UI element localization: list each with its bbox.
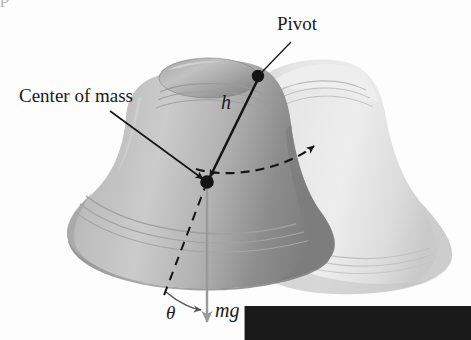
weight-vector-label: mg — [215, 300, 239, 320]
theta-angle-label: θ — [166, 303, 175, 322]
diagram-canvas — [0, 0, 471, 340]
h-vector-symbol: h — [221, 91, 231, 113]
gravity-symbol: g — [229, 299, 239, 321]
pivot-label: Pivot — [277, 14, 317, 33]
center-of-mass-label: Center of mass — [19, 86, 133, 105]
top-cropped-caption-text: p — [0, 0, 10, 7]
center-of-mass-point-dot — [200, 175, 214, 189]
bell-physics-diagram: p Pivot Center of mass h θ mg — [0, 0, 471, 340]
pivot-point-dot — [252, 70, 264, 82]
mass-symbol: m — [215, 299, 229, 321]
h-vector-label: h — [221, 92, 231, 112]
top-cropped-caption: p — [0, 0, 471, 7]
